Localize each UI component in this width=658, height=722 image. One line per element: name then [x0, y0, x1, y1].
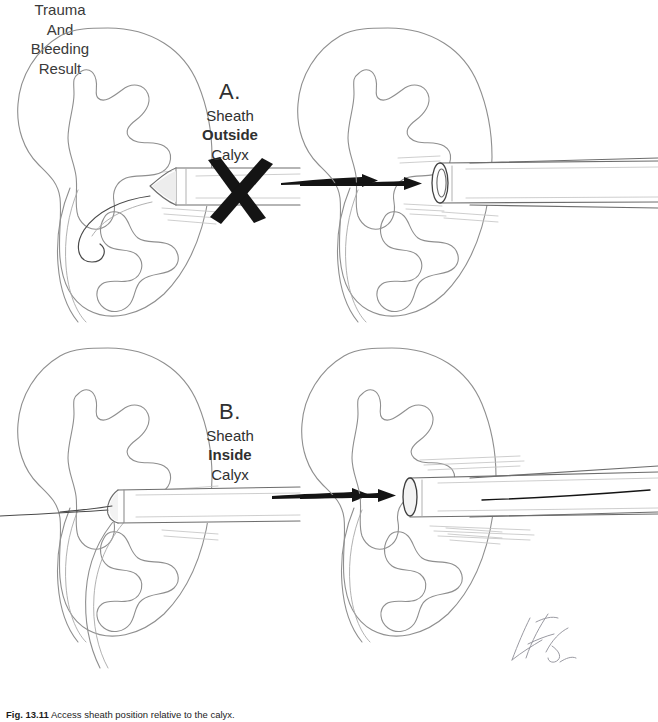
panel-a-label-line-1: Sheath — [175, 106, 285, 125]
panel-a-label-line-2: Outside — [175, 125, 285, 144]
kidney-access-sheath-illustration: .pl { fill:none; stroke:#8f8f8f; stroke-… — [0, 0, 658, 700]
panel-b-label-line-2: Inside — [175, 445, 285, 464]
panel-a-label-line-3: Calyx — [175, 145, 285, 164]
panel-b-label-line-3: Calyx — [175, 465, 285, 484]
figure-root: .pl { fill:none; stroke:#8f8f8f; stroke-… — [0, 0, 658, 722]
figure-caption: Fig. 13.11 Access sheath position relati… — [6, 709, 652, 722]
figure-caption-text: Access sheath position relative to the c… — [51, 709, 235, 720]
panel-a-letter: A. — [175, 78, 285, 106]
panel-a-label: A. Sheath Outside Calyx — [175, 78, 285, 164]
panel-b-label-line-1: Sheath — [175, 426, 285, 445]
panel-a-illustration — [18, 28, 658, 322]
panel-b-illustration — [0, 348, 658, 668]
figure-caption-number: Fig. 13.11 — [6, 709, 49, 720]
panel-b-sheath-open-lumen — [403, 472, 658, 518]
panel-b-label: B. Sheath Inside Calyx — [175, 398, 285, 484]
artist-signature — [512, 614, 576, 662]
panel-b-letter: B. — [175, 398, 285, 426]
panel-a-sheath-open-lumen — [432, 161, 658, 205]
panel-a-guidewire — [78, 196, 152, 262]
panel-b-sheath-inside-calyx — [60, 487, 300, 524]
